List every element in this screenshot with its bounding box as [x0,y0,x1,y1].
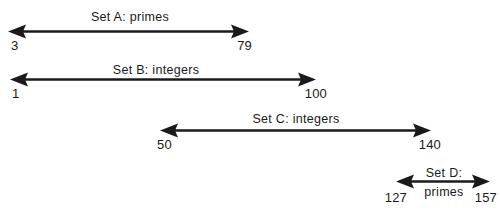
set-d-start-label: 127 [385,190,407,205]
range-group-set-c: Set C: integers 50 140 [157,112,441,152]
range-diagram-canvas: Set A: primes 3 79 Set B: integers 1 100… [0,0,500,213]
set-d-label-line1: Set D: [426,166,463,180]
set-d-end-label: 157 [475,190,497,205]
set-a-start-label: 3 [11,38,18,53]
set-a-label: Set A: primes [91,10,169,24]
range-group-set-b: Set B: integers 1 100 [10,63,327,101]
set-range-diagram: Set A: primes 3 79 Set B: integers 1 100… [0,0,500,213]
set-c-label: Set C: integers [252,112,339,126]
set-a-end-label: 79 [237,38,252,53]
set-d-label-line2: primes [424,185,463,199]
set-b-label: Set B: integers [113,63,200,77]
range-group-set-d: Set D: primes 127 157 [385,166,497,205]
set-c-start-label: 50 [157,137,172,152]
range-group-set-a: Set A: primes 3 79 [8,10,252,53]
set-a-arrow [8,25,249,39]
set-b-start-label: 1 [12,86,19,101]
set-c-end-label: 140 [419,137,441,152]
set-b-end-label: 100 [305,86,327,101]
